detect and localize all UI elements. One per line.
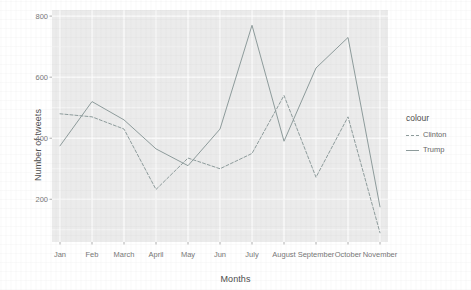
- legend-title: colour: [406, 113, 468, 123]
- x-tick-label: Jun: [214, 250, 226, 259]
- x-axis-title: Months: [0, 274, 471, 284]
- legend-item-clinton[interactable]: Clinton: [406, 128, 468, 141]
- x-tick-label: August: [272, 250, 295, 259]
- legend-label-trump: Trump: [423, 145, 444, 154]
- line-chart: Number of tweets 200400600800 JanFebMarc…: [0, 0, 471, 290]
- legend-item-trump[interactable]: Trump: [406, 143, 468, 156]
- x-tick-label: Jan: [54, 250, 66, 259]
- legend-key-clinton-icon: [406, 130, 419, 140]
- x-tick-label: March: [114, 250, 135, 259]
- x-tick-label: Feb: [86, 250, 99, 259]
- x-tick-label: July: [245, 250, 258, 259]
- x-axis-tick-labels: JanFebMarchAprilMayJunJulyAugustSeptembe…: [0, 250, 471, 266]
- x-tick-label: November: [363, 250, 398, 259]
- legend-key-trump-icon: [406, 145, 419, 155]
- legend: colour Clinton Trump: [406, 113, 468, 158]
- legend-label-clinton: Clinton: [423, 130, 446, 139]
- plot-panel: [0, 0, 471, 290]
- x-tick-label: April: [148, 250, 163, 259]
- x-tick-label: May: [181, 250, 195, 259]
- x-tick-label: September: [298, 250, 335, 259]
- x-tick-label: October: [335, 250, 362, 259]
